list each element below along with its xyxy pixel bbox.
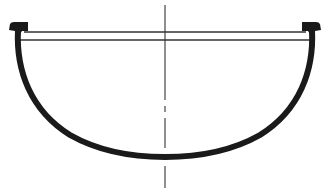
bowl-section-drawing <box>0 0 330 195</box>
